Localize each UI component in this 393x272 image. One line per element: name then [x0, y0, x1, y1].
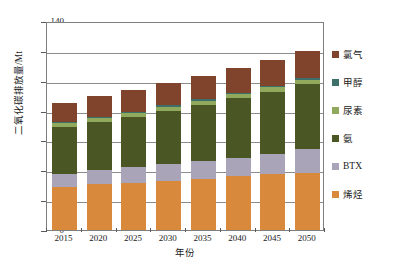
bar-stack[interactable] [191, 76, 216, 230]
bar-segment[interactable] [260, 92, 285, 154]
legend-swatch-icon [332, 163, 339, 170]
bar-segment[interactable] [121, 90, 146, 112]
legend-item-label: 尿素 [343, 103, 363, 117]
bar-segment[interactable] [226, 68, 251, 93]
legend-swatch-icon [332, 107, 339, 114]
legend-item[interactable]: 烯烃 [332, 180, 390, 208]
bar-segment[interactable] [52, 174, 77, 187]
bar-segment[interactable] [226, 176, 251, 230]
x-axis-tick-label: 2020 [81, 233, 115, 243]
bar-segment[interactable] [156, 181, 181, 230]
x-axis-tick-mark [81, 228, 82, 232]
legend-swatch-icon [332, 191, 339, 198]
x-axis-tick-mark [324, 228, 325, 232]
legend-item[interactable]: 氯气 [332, 40, 390, 68]
bar-segment[interactable] [156, 111, 181, 165]
x-axis-tick-label: 2030 [151, 233, 185, 243]
bar-stack[interactable] [260, 60, 285, 230]
legend-item[interactable]: 氨 [332, 124, 390, 152]
bar-segment[interactable] [87, 184, 112, 230]
bar-segment[interactable] [52, 103, 77, 122]
bar-segment[interactable] [295, 51, 320, 78]
bar-stack[interactable] [87, 96, 112, 230]
bar-segment[interactable] [191, 76, 216, 100]
x-axis-tick-label: 2025 [116, 233, 150, 243]
x-axis-tick-label: 2045 [255, 233, 289, 243]
legend-swatch-icon [332, 79, 339, 86]
bar-segment[interactable] [87, 122, 112, 171]
bar-segment[interactable] [52, 127, 77, 174]
bar-stack[interactable] [156, 83, 181, 230]
bar-stack[interactable] [295, 51, 320, 230]
x-axis-tick-mark [150, 228, 151, 232]
bar-segment[interactable] [295, 173, 320, 230]
legend-item[interactable]: 甲醇 [332, 68, 390, 96]
bar-segment[interactable] [87, 96, 112, 116]
bar-segment[interactable] [87, 170, 112, 184]
x-axis-tick-label: 2015 [46, 233, 80, 243]
y-axis-title: 二氧化碳排放量/Mt [11, 23, 25, 163]
bar-stack[interactable] [226, 68, 251, 230]
bar-segment[interactable] [260, 174, 285, 230]
legend-item-label: 氨 [343, 131, 353, 145]
x-axis-title: 年份 [46, 245, 324, 259]
bar-segment[interactable] [156, 164, 181, 180]
x-axis-tick-mark [255, 228, 256, 232]
bar-segment[interactable] [226, 158, 251, 177]
bar-segment[interactable] [295, 84, 320, 149]
x-axis-tick-mark [220, 228, 221, 232]
plot-area [46, 22, 324, 231]
legend-item-label: 甲醇 [343, 75, 363, 89]
bar-segment[interactable] [260, 60, 285, 86]
bar-segment[interactable] [52, 187, 77, 230]
bar-segment[interactable] [295, 149, 320, 172]
x-axis-tick-mark [116, 228, 117, 232]
bar-segment[interactable] [226, 98, 251, 158]
bar-stack[interactable] [121, 90, 146, 230]
legend-item[interactable]: BTX [332, 152, 390, 180]
bar-segment[interactable] [260, 154, 285, 174]
bar-segment[interactable] [156, 83, 181, 105]
gridline [47, 53, 323, 54]
bar-segment[interactable] [191, 105, 216, 162]
bar-segment[interactable] [121, 117, 146, 168]
legend-item-label: BTX [343, 161, 362, 171]
bar-stack[interactable] [52, 103, 77, 230]
chart-legend: 氯气甲醇尿素氨BTX烯烃 [332, 40, 390, 208]
bar-segment[interactable] [121, 183, 146, 230]
legend-item[interactable]: 尿素 [332, 96, 390, 124]
x-axis-tick-label: 2050 [290, 233, 324, 243]
chart-container: 二氧化碳排放量/Mt 020406080100120140 2015202020… [0, 0, 393, 272]
x-axis-tick-mark [185, 228, 186, 232]
legend-swatch-icon [332, 51, 339, 58]
x-axis-tick-mark [289, 228, 290, 232]
x-axis-tick-mark [46, 228, 47, 232]
bar-segment[interactable] [121, 167, 146, 183]
bar-segment[interactable] [191, 179, 216, 231]
legend-item-label: 烯烃 [343, 187, 363, 201]
legend-swatch-icon [332, 135, 339, 142]
bar-segment[interactable] [191, 161, 216, 178]
x-axis-tick-label: 2040 [220, 233, 254, 243]
x-axis-tick-label: 2035 [185, 233, 219, 243]
x-axis-ticks: 20152020202520302035204020452050 [46, 232, 324, 246]
legend-item-label: 氯气 [343, 47, 363, 61]
